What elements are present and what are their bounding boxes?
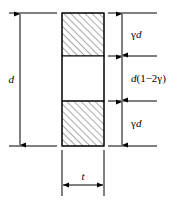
label-bottom-zone: γd [130, 117, 142, 129]
label-bottom-zone-var: d [136, 117, 142, 129]
dimension-thickness: t [62, 150, 104, 196]
label-middle-zone-expr: (1−2γ) [137, 72, 167, 85]
bottom-flange-hatch [62, 101, 104, 146]
label-thickness: t [81, 170, 85, 182]
dimension-middle-zone: d(1−2γ) [122, 57, 166, 100]
label-top-zone-var: d [136, 28, 142, 40]
dimension-top-zone: γd [122, 14, 142, 55]
label-top-zone: γd [130, 28, 142, 40]
label-overall-depth: d [9, 73, 15, 85]
web-core-fill [62, 56, 104, 101]
dimension-overall-depth: d [9, 13, 58, 146]
dimension-bottom-zone: γd [122, 102, 142, 145]
cross-section-diagram: d γd d(1−2γ) γd [0, 0, 188, 204]
figure-container: d γd d(1−2γ) γd [0, 0, 188, 204]
top-flange-hatch [62, 13, 104, 56]
label-middle-zone: d(1−2γ) [131, 72, 166, 85]
label-overall-depth-var: d [9, 73, 15, 85]
label-thickness-var: t [81, 170, 85, 182]
bar-body [62, 13, 104, 146]
